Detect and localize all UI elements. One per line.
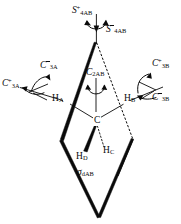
label-c3b-minus: C3B <box>152 93 169 103</box>
kite-edge-right-thin <box>118 140 133 176</box>
atom-label-ha: HA <box>52 94 64 104</box>
label-s4ab-minus-sub: 4AB <box>114 27 126 34</box>
bond-c-hc <box>97 126 104 147</box>
atom-label-hd: HD <box>76 152 88 162</box>
atom-label-ha-base: H <box>52 93 59 103</box>
label-c3b-minus-sub: 3B <box>162 95 169 102</box>
atom-label-hd-base: H <box>76 151 83 161</box>
atom-label-hc: HC <box>103 146 114 156</box>
c2ab-arrowhead-left <box>85 85 91 90</box>
atom-label-hb-base: H <box>124 93 131 103</box>
label-c3b-plus-sub: 3B <box>162 62 169 69</box>
label-s4ab-plus-sub: 4AB <box>80 9 92 16</box>
bond-c-hd <box>84 125 97 152</box>
atom-label-hc-base: H <box>103 145 110 155</box>
label-c3a-minus: C3A <box>40 61 58 71</box>
label-sigma-dab: σdAB <box>77 167 94 177</box>
atom-label-hb-sub: B <box>131 96 135 103</box>
label-c3a-plus-sub: 3A <box>12 82 20 89</box>
atom-label-hb: HB <box>124 94 135 104</box>
label-c3a-plus: C+3A <box>2 78 20 89</box>
label-c3a-minus-overline <box>46 61 50 62</box>
bond-group <box>70 104 124 152</box>
c3a-arrowhead-upper <box>45 74 50 81</box>
label-c2ab: C2AB <box>86 68 104 78</box>
label-s4ab-plus: S+4AB <box>72 5 92 16</box>
atom-label-hd-sub: D <box>83 154 88 161</box>
c3b-axis-line-tail <box>139 82 156 90</box>
label-s4ab-minus-overline <box>110 25 114 26</box>
atom-label-ha-sub: A <box>59 96 64 103</box>
c3b-arrowhead-upper <box>146 72 151 78</box>
atom-label-c-center: C <box>93 116 101 126</box>
symmetry-diagram-figure: S+4AB S4AB C3A C+3A C+3B C3B C2AB σdAB H… <box>0 0 181 224</box>
atom-label-hc-sub: C <box>110 148 114 155</box>
c2ab-arrowhead-right <box>101 84 107 90</box>
label-c3b-plus: C+3B <box>152 58 169 69</box>
diagram-canvas <box>0 0 181 224</box>
label-c2ab-sub: 2AB <box>92 70 104 77</box>
atom-label-c-center-base: C <box>94 115 100 125</box>
label-sigma-dab-sub: dAB <box>82 170 94 177</box>
label-c3b-minus-overline <box>158 93 162 94</box>
bond-c-hb <box>100 104 124 118</box>
c3a-rotation-arc-upper <box>31 77 48 92</box>
s4ab-arrowhead-left <box>84 20 91 26</box>
kite-edge-top-left <box>60 42 96 140</box>
label-s4ab-minus: S4AB <box>106 25 126 35</box>
label-c3a-minus-sub: 3A <box>50 63 58 70</box>
c2ab-axis-group <box>85 78 107 112</box>
